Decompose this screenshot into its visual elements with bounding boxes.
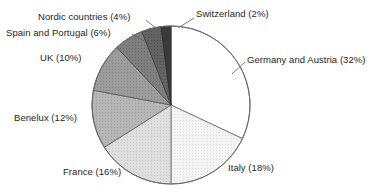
pie-label-uk: UK (10%)	[40, 52, 82, 63]
pie-label-france: France (16%)	[63, 166, 121, 177]
pie-label-benelux: Benelux (12%)	[14, 112, 77, 123]
pie-label-italy: Italy (18%)	[228, 162, 274, 173]
pie-label-nordic-countries: Nordic countries (4%)	[38, 11, 130, 22]
pie-label-spain-portugal: Spain and Portugal (6%)	[6, 27, 111, 38]
pie-label-germany-austria: Germany and Austria (32%)	[247, 54, 365, 65]
pie-chart-figure: Nordic countries (4%) Switzerland (2%) S…	[0, 0, 380, 192]
pie-slices	[92, 26, 250, 184]
leader-line-switzerland	[178, 18, 194, 28]
pie-label-switzerland: Switzerland (2%)	[196, 8, 269, 19]
